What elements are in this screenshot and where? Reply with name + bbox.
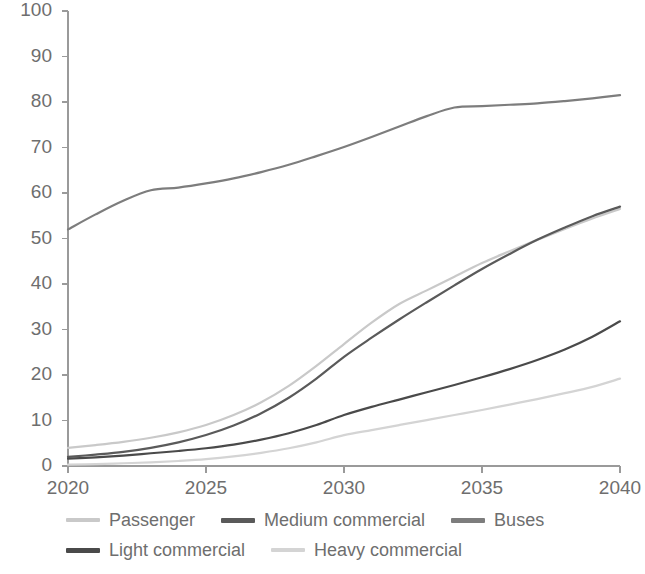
legend-label: Light commercial bbox=[109, 540, 245, 561]
legend-label: Heavy commercial bbox=[314, 540, 462, 561]
legend-item-buses[interactable]: Buses bbox=[451, 510, 544, 531]
y-axis-tick-label: 0 bbox=[6, 454, 52, 476]
chart-legend: PassengerMedium commercialBusesLight com… bbox=[0, 505, 638, 574]
x-axis-tick-label: 2025 bbox=[166, 477, 246, 499]
x-axis-tick-label: 2020 bbox=[28, 477, 108, 499]
legend-item-passenger[interactable]: Passenger bbox=[66, 510, 195, 531]
legend-label: Buses bbox=[494, 510, 544, 531]
y-axis-tick-label: 30 bbox=[6, 318, 52, 340]
y-axis-tick-label: 80 bbox=[6, 90, 52, 112]
legend-swatch-icon bbox=[451, 518, 485, 523]
legend-item-medium-commercial[interactable]: Medium commercial bbox=[221, 510, 425, 531]
y-axis-tick-label: 20 bbox=[6, 363, 52, 385]
y-axis-tick-label: 40 bbox=[6, 272, 52, 294]
axes bbox=[62, 11, 620, 473]
x-axis-tick-label: 2030 bbox=[304, 477, 384, 499]
x-axis-tick-label: 2035 bbox=[442, 477, 522, 499]
legend-item-light-commercial[interactable]: Light commercial bbox=[66, 540, 245, 561]
series-line-medium-commercial bbox=[68, 207, 620, 457]
legend-row: PassengerMedium commercialBuses bbox=[0, 505, 638, 535]
legend-swatch-icon bbox=[66, 548, 100, 553]
series-line-buses bbox=[68, 95, 620, 229]
y-axis-tick-label: 100 bbox=[6, 0, 52, 21]
x-axis-tick-label: 2040 bbox=[580, 477, 645, 499]
plot-area bbox=[0, 0, 638, 505]
legend-swatch-icon bbox=[221, 518, 255, 523]
series-line-heavy-commercial bbox=[68, 379, 620, 465]
legend-label: Passenger bbox=[109, 510, 195, 531]
y-axis-tick-label: 10 bbox=[6, 409, 52, 431]
y-axis-tick-label: 60 bbox=[6, 181, 52, 203]
series-line-passenger bbox=[68, 209, 620, 448]
y-axis-tick-label: 50 bbox=[6, 227, 52, 249]
legend-swatch-icon bbox=[66, 518, 100, 522]
data-series-group bbox=[68, 95, 620, 464]
legend-item-heavy-commercial[interactable]: Heavy commercial bbox=[271, 540, 462, 561]
y-axis-tick-label: 90 bbox=[6, 45, 52, 67]
legend-row: Light commercialHeavy commercial bbox=[0, 535, 638, 565]
legend-swatch-icon bbox=[271, 548, 305, 552]
legend-label: Medium commercial bbox=[264, 510, 425, 531]
y-axis-tick-label: 70 bbox=[6, 136, 52, 158]
